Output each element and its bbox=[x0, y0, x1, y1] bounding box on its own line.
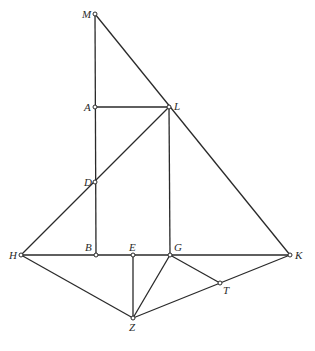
point-T bbox=[218, 281, 222, 285]
point-D bbox=[93, 180, 97, 184]
point-G bbox=[168, 253, 172, 257]
labels: M A L D H B E G K T Z bbox=[8, 8, 303, 333]
label-Z: Z bbox=[129, 321, 136, 333]
label-H: H bbox=[8, 249, 18, 261]
label-M: M bbox=[81, 8, 92, 20]
label-E: E bbox=[128, 241, 136, 253]
point-A bbox=[93, 105, 97, 109]
point-Z bbox=[131, 316, 135, 320]
point-M bbox=[93, 12, 97, 16]
geometry-diagram: M A L D H B E G K T Z bbox=[0, 0, 315, 351]
segment-ZK bbox=[133, 255, 290, 318]
segments bbox=[21, 14, 290, 318]
segment-GZ bbox=[133, 255, 170, 318]
point-H bbox=[19, 253, 23, 257]
label-K: K bbox=[294, 249, 303, 261]
segment-GT bbox=[170, 255, 220, 283]
label-B: B bbox=[85, 241, 92, 253]
point-E bbox=[131, 253, 135, 257]
segment-LG bbox=[169, 107, 170, 255]
point-L bbox=[167, 105, 171, 109]
label-G: G bbox=[174, 241, 182, 253]
point-B bbox=[94, 253, 98, 257]
label-A: A bbox=[83, 101, 91, 113]
segment-HZ bbox=[21, 255, 133, 318]
segment-MK bbox=[95, 14, 290, 255]
label-D: D bbox=[83, 176, 92, 188]
label-T: T bbox=[223, 284, 230, 296]
segment-MB bbox=[95, 14, 96, 255]
points bbox=[19, 12, 292, 320]
label-L: L bbox=[173, 100, 180, 112]
point-K bbox=[288, 253, 292, 257]
